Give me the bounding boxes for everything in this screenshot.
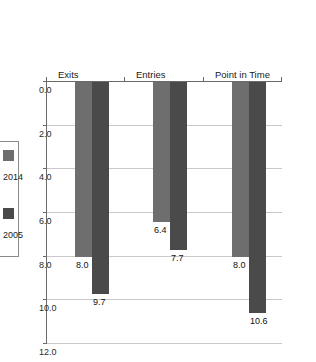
value-axis-tick-label: 0.0 [39, 85, 52, 95]
bar-2005-entries[interactable] [171, 82, 188, 250]
value-axis-tick [43, 299, 47, 300]
bar-value-label: 6.4 [155, 225, 168, 235]
value-axis-tick [43, 212, 47, 213]
legend-swatch-2014 [3, 150, 14, 161]
bar-2005-exits[interactable] [92, 82, 109, 294]
category-axis-tick [124, 77, 125, 81]
plot-area: 0.02.04.06.08.010.012.0 10.68.07.76.49.7… [47, 81, 282, 343]
gridline [47, 343, 282, 344]
category-label-point-in-time: Point in Time [215, 69, 270, 80]
legend-label-2005: 2005 [3, 230, 23, 240]
category-label-exits: Exits [58, 69, 79, 80]
value-axis-tick-label: 4.0 [39, 172, 52, 182]
bar-value-label: 9.7 [93, 297, 106, 307]
value-axis-tick-label: 10.0 [39, 303, 57, 313]
rotated-chart-container: 0.02.04.06.08.010.012.0 10.68.07.76.49.7… [0, 0, 316, 362]
value-axis-tick [43, 81, 47, 82]
legend-label-2014: 2014 [3, 172, 23, 182]
chart-canvas: 0.02.04.06.08.010.012.0 10.68.07.76.49.7… [0, 0, 316, 362]
bar-2014-exits[interactable] [75, 82, 92, 257]
bar-2005-point-in-time[interactable] [249, 82, 266, 313]
bar-2014-entries[interactable] [154, 82, 171, 222]
value-axis-tick-label: 6.0 [39, 216, 52, 226]
category-axis-tick [281, 77, 282, 81]
bar-value-label: 10.6 [250, 316, 268, 326]
value-axis-tick-label: 12.0 [39, 347, 57, 357]
bar-value-label: 8.0 [233, 260, 246, 270]
bar-2014-point-in-time[interactable] [232, 82, 249, 257]
legend-swatch-2005 [3, 208, 14, 219]
bar-value-label: 8.0 [76, 260, 89, 270]
value-axis-tick [43, 125, 47, 126]
value-axis-tick [43, 343, 47, 344]
value-axis-tick [43, 168, 47, 169]
value-axis-tick-label: 2.0 [39, 129, 52, 139]
chart-legend[interactable]: 20142005 [0, 141, 19, 257]
gridline [47, 299, 282, 300]
category-axis-tick [203, 77, 204, 81]
category-label-entries: Entries [137, 69, 167, 80]
bar-value-label: 7.7 [172, 253, 185, 263]
category-axis-tick [46, 77, 47, 81]
value-axis-tick [43, 256, 47, 257]
value-axis-tick-label: 8.0 [39, 260, 52, 270]
